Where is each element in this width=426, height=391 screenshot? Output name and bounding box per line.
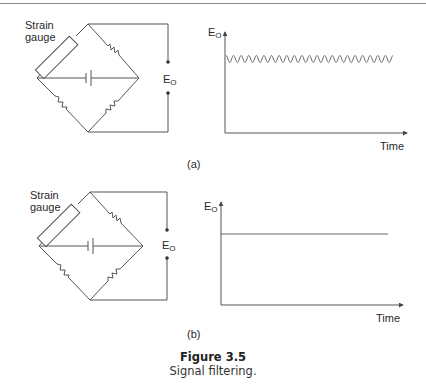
- output-label-a: EO: [163, 73, 177, 89]
- battery-a: [37, 70, 139, 86]
- x-axis-label-a: Time: [380, 140, 404, 152]
- strain-label-line2-a: gauge: [25, 31, 56, 43]
- output-terminal-top-a: [166, 60, 170, 64]
- resistor-top-right-a: [88, 24, 139, 78]
- resistor-bottom-right-a: [88, 78, 139, 132]
- resistor-top-right-b: [90, 192, 143, 246]
- strain-label-line1-a: Strain: [25, 19, 56, 31]
- battery-b: [39, 238, 143, 254]
- figure-canvas: [0, 0, 426, 391]
- y-axis-label-b: EO: [204, 200, 218, 216]
- graph-a: [225, 32, 407, 133]
- resistor-bottom-right-b: [90, 246, 143, 300]
- strain-gauge-label-b: Strain gauge: [30, 189, 61, 213]
- resistor-bottom-left-b: [39, 246, 90, 300]
- figure-caption: Signal filtering.: [0, 364, 426, 378]
- panel-label-b: (b): [187, 328, 200, 340]
- ripple-signal-a: [226, 56, 393, 63]
- output-label-b: EO: [162, 239, 176, 255]
- strain-gauge-label-a: Strain gauge: [25, 19, 56, 43]
- strain-label-line1-b: Strain: [30, 189, 61, 201]
- resistor-bottom-left-a: [37, 78, 88, 132]
- output-terminal-bottom-a: [166, 91, 170, 95]
- output-terminal-top-b: [165, 228, 169, 232]
- figure-number: Figure 3.5: [0, 350, 426, 364]
- panel-label-a: (a): [187, 158, 200, 170]
- x-axis-label-b: Time: [376, 312, 400, 324]
- strain-label-line2-b: gauge: [30, 201, 61, 213]
- y-axis-label-a: EO: [208, 26, 222, 42]
- output-terminal-bottom-b: [165, 256, 169, 260]
- graph-b: [221, 202, 403, 305]
